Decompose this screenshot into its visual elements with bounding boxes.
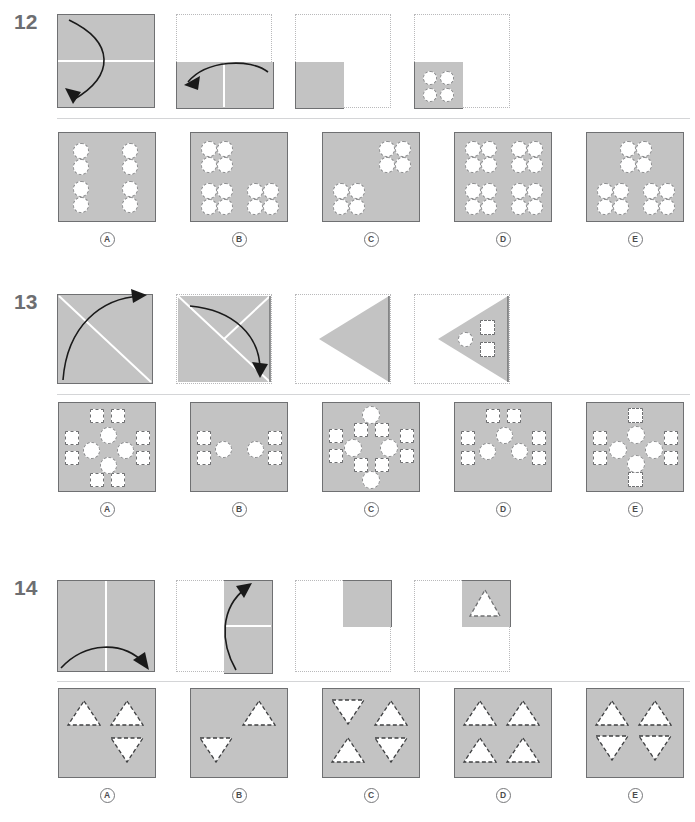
circle-hole <box>247 441 264 458</box>
hole <box>597 183 613 199</box>
square-hole <box>507 409 521 423</box>
punched-hole <box>423 71 437 85</box>
hole <box>73 197 89 213</box>
option-box-a-q13[interactable] <box>58 402 156 492</box>
section-divider <box>57 118 690 119</box>
option-box-b-q12[interactable] <box>190 132 288 222</box>
fold-step-2-q12 <box>176 14 272 108</box>
option-label-d-q12: D <box>486 232 520 247</box>
option-label-e-q14: E <box>618 788 652 803</box>
fold-step-4-q14 <box>414 580 510 672</box>
circle-hole <box>645 441 663 459</box>
option-label-d-q14: D <box>486 788 520 803</box>
hole <box>643 199 659 215</box>
circle-hole <box>344 439 362 457</box>
option-box-b-q14[interactable] <box>190 688 288 778</box>
square-hole <box>593 451 607 465</box>
section-divider <box>57 681 690 682</box>
punched-hole <box>440 88 454 102</box>
option-box-a-q12[interactable] <box>58 132 156 222</box>
question-number-14: 14 <box>14 576 54 600</box>
worksheet-page: 12 <box>0 0 695 822</box>
fold-arrow-icon <box>176 580 272 672</box>
option-box-c-q12[interactable] <box>322 132 420 222</box>
square-hole <box>461 451 475 465</box>
hole <box>217 183 233 199</box>
option-label-a-q14: A <box>90 788 124 803</box>
option-box-a-q14[interactable] <box>58 688 156 778</box>
option-label-b-q14: B <box>222 788 256 803</box>
square-hole <box>532 451 546 465</box>
square-hole <box>400 449 414 463</box>
square-hole <box>400 429 414 443</box>
hole <box>201 141 217 157</box>
fold-step-3-q12 <box>295 14 391 108</box>
circle-hole <box>362 471 380 489</box>
fold-step-2-q13 <box>176 294 272 384</box>
hole <box>379 157 395 173</box>
option-box-b-q13[interactable] <box>190 402 288 492</box>
option-label-e-q13: E <box>618 502 652 517</box>
hole <box>465 157 481 173</box>
hole <box>122 143 138 159</box>
circle-hole <box>100 457 117 474</box>
option-box-e-q13[interactable] <box>586 402 684 492</box>
fold-arrow-icon <box>176 294 272 384</box>
question-block-14: 14 <box>0 576 695 816</box>
square-hole <box>197 451 211 465</box>
circle-hole <box>100 427 117 444</box>
hole <box>481 183 497 199</box>
option-label-b-q13: B <box>222 502 256 517</box>
circle-hole <box>511 443 528 460</box>
circle-hole <box>479 443 496 460</box>
option-box-d-q13[interactable] <box>454 402 552 492</box>
square-hole <box>486 409 500 423</box>
fold-arrow-icon <box>176 14 272 108</box>
square-hole <box>461 431 475 445</box>
square-hole <box>65 431 79 445</box>
hole <box>333 199 349 215</box>
hole <box>333 183 349 199</box>
option-box-d-q12[interactable] <box>454 132 552 222</box>
hole <box>349 199 365 215</box>
hole <box>659 183 675 199</box>
hole <box>636 157 652 173</box>
circle-hole <box>496 427 513 444</box>
fold-arrow-icon <box>57 294 153 384</box>
question-number-12: 12 <box>14 10 54 34</box>
hole <box>481 157 497 173</box>
option-label-c-q13: C <box>354 502 388 517</box>
hole <box>73 181 89 197</box>
question-number-13: 13 <box>14 290 54 314</box>
circle-hole <box>627 426 645 444</box>
circle-hole <box>380 439 398 457</box>
option-box-d-q14[interactable] <box>454 688 552 778</box>
hole <box>481 141 497 157</box>
punched-triangle-hole <box>414 580 510 672</box>
hole <box>395 157 411 173</box>
square-hole <box>664 431 678 445</box>
option-label-a-q13: A <box>90 502 124 517</box>
hole <box>643 183 659 199</box>
fold-arrow-icon <box>57 14 155 108</box>
square-hole <box>111 409 125 423</box>
hole <box>613 199 629 215</box>
square-hole <box>329 449 343 463</box>
option-box-c-q13[interactable] <box>322 402 420 492</box>
punched-hole <box>423 88 437 102</box>
circle-hole <box>215 441 232 458</box>
square-hole <box>664 451 678 465</box>
question-block-13: 13 <box>0 290 695 540</box>
hole <box>597 199 613 215</box>
square-hole <box>329 429 343 443</box>
option-box-c-q14[interactable] <box>322 688 420 778</box>
fold-step-4-q12 <box>414 14 510 108</box>
square-hole <box>197 431 211 445</box>
hole <box>349 183 365 199</box>
circle-hole <box>362 406 380 424</box>
option-box-e-q14[interactable] <box>586 688 684 778</box>
square-hole <box>354 423 368 437</box>
triangle-holes <box>587 689 683 777</box>
option-box-e-q12[interactable] <box>586 132 684 222</box>
circle-hole <box>117 442 134 459</box>
